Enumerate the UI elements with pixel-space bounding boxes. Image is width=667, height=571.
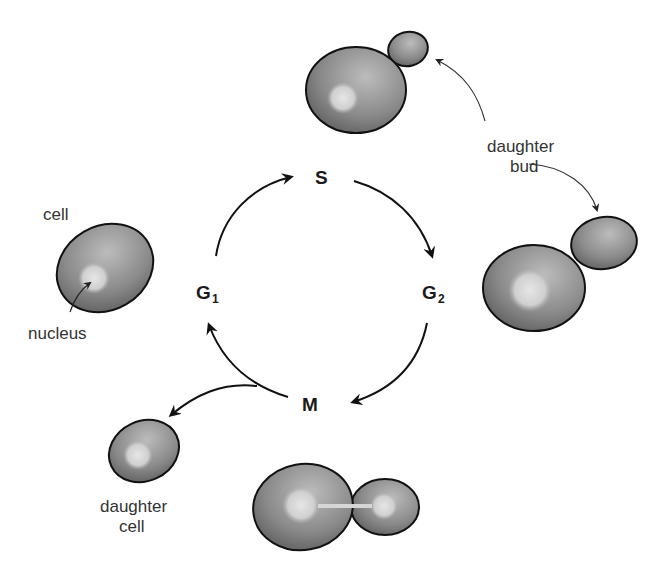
bud-pointer-arrow-right bbox=[529, 164, 597, 210]
phase-g2-label: G 2 bbox=[422, 282, 445, 306]
nucleus-label: nucleus bbox=[28, 324, 87, 343]
nucleus-icon bbox=[370, 492, 398, 520]
nucleus-icon bbox=[508, 268, 552, 312]
phase-m-label: M bbox=[302, 394, 318, 415]
arrow-s-to-g2 bbox=[354, 181, 432, 256]
daughter-cell bbox=[99, 409, 190, 494]
bud-pointer-arrow-top bbox=[437, 60, 485, 121]
g1-cell bbox=[41, 207, 170, 330]
m-phase-dividing-cell bbox=[246, 456, 419, 558]
phase-g1-label: G 1 bbox=[196, 282, 219, 306]
nucleus-icon bbox=[123, 440, 153, 470]
arrow-to-daughter-cell bbox=[171, 385, 257, 415]
daughter-cell-label-line2: cell bbox=[119, 517, 145, 536]
svg-text:G: G bbox=[422, 282, 437, 303]
daughter-bud-label-line2: bud bbox=[510, 157, 538, 176]
svg-text:G: G bbox=[196, 282, 211, 303]
g2-budding-cell bbox=[483, 212, 641, 331]
phase-s-label: S bbox=[315, 167, 328, 188]
daughter-cell-label-line1: daughter bbox=[100, 497, 167, 516]
s-phase-budding-cell bbox=[306, 27, 432, 133]
nucleus-icon bbox=[327, 82, 359, 114]
svg-text:1: 1 bbox=[212, 292, 219, 306]
cell-label: cell bbox=[43, 205, 69, 224]
daughter-bud-label-line1: daughter bbox=[487, 137, 554, 156]
arrow-g2-to-m bbox=[353, 323, 427, 402]
nucleus-icon bbox=[282, 486, 320, 524]
svg-text:2: 2 bbox=[438, 292, 445, 306]
diagram-canvas: cell nucleus daughter bud S G 2 M G 1 da… bbox=[0, 0, 667, 571]
arrow-g1-to-s bbox=[216, 177, 291, 256]
cell-cycle-diagram: cell nucleus daughter bud S G 2 M G 1 da… bbox=[0, 0, 667, 571]
